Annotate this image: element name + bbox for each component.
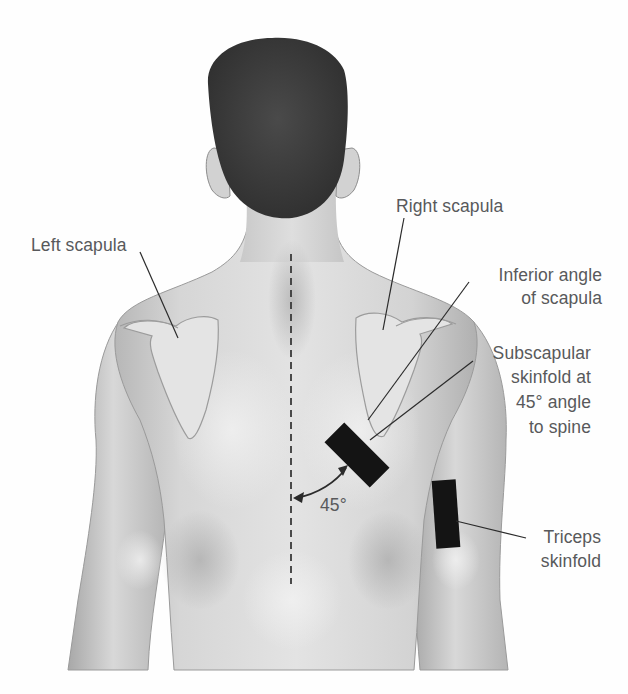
label-triceps-line2: skinfold bbox=[541, 551, 601, 572]
label-subscapular-line3: 45° angle bbox=[516, 392, 591, 413]
label-subscapular-line1: Subscapular bbox=[493, 343, 591, 364]
label-subscapular-line2: skinfold at bbox=[511, 367, 591, 388]
label-triceps-line1: Triceps bbox=[544, 527, 601, 548]
label-angle-45: 45° bbox=[320, 495, 347, 516]
label-right-scapula: Right scapula bbox=[396, 196, 503, 217]
triceps-skinfold-marker bbox=[432, 479, 461, 549]
figure-canvas: Left scapula Right scapula Inferior angl… bbox=[0, 0, 628, 694]
label-subscapular-line4: to spine bbox=[529, 417, 591, 438]
label-inferior-angle-line1: Inferior angle bbox=[498, 265, 602, 286]
label-inferior-angle-line2: of scapula bbox=[521, 288, 602, 309]
label-left-scapula: Left scapula bbox=[31, 235, 127, 256]
